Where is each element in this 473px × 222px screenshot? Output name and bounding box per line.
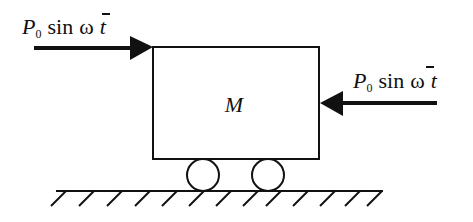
- wheel-right: [252, 159, 284, 191]
- mass-cart-diagram: M P0sinωt P0sinωt: [0, 0, 473, 222]
- force-arrow-right: [320, 91, 437, 116]
- wheel-left: [187, 159, 219, 191]
- ground-hatched: [51, 191, 383, 206]
- force-arrow-left: [34, 36, 153, 60]
- mass-label: M: [224, 92, 245, 117]
- force-label-left: P0sinωt: [21, 14, 107, 41]
- force-label-right: P0sinωt: [352, 68, 438, 95]
